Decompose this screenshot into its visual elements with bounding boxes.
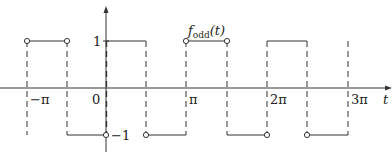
tick-label-two-pi: 2π xyxy=(270,92,287,107)
open-circle-icon xyxy=(264,132,269,137)
open-circle-icon xyxy=(143,132,148,137)
open-circle-icon xyxy=(24,38,29,43)
tick-label-one: 1 xyxy=(93,34,101,49)
x-axis-label: t xyxy=(383,92,389,107)
function-label-arg: (t) xyxy=(210,23,225,38)
odd-square-wave-plot: −π 0 π 2π 3π 1 −1 t fodd(t) xyxy=(0,0,392,152)
tick-label-zero: 0 xyxy=(92,92,100,107)
function-label: fodd(t) xyxy=(187,23,225,40)
tick-label-pi: π xyxy=(189,92,198,107)
open-circle-icon xyxy=(183,38,188,43)
open-circle-icon xyxy=(103,132,108,137)
open-circle-icon xyxy=(224,38,229,43)
y-axis-arrow-icon xyxy=(104,6,109,13)
open-circle-icon xyxy=(304,132,309,137)
tick-label-neg-pi: −π xyxy=(30,92,50,107)
tick-label-three-pi: 3π xyxy=(351,92,368,107)
x-axis-arrow-icon xyxy=(385,86,392,91)
open-circle-icon xyxy=(64,38,69,43)
function-label-sub: odd xyxy=(193,30,210,40)
tick-label-neg-one: −1 xyxy=(111,128,130,143)
